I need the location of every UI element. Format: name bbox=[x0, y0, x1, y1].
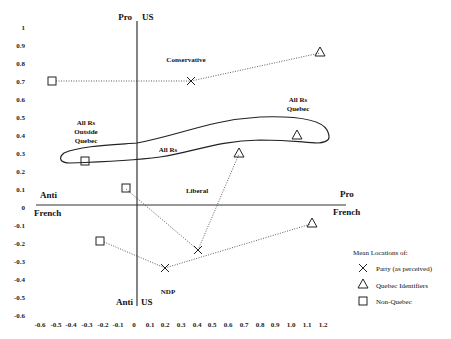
label-ndp: NDP bbox=[161, 288, 176, 296]
legend-label-nonquebec: Non-Quebec bbox=[376, 298, 412, 306]
legend-triangle-icon bbox=[358, 279, 368, 288]
y-tick: -0.4 bbox=[14, 276, 26, 284]
x-tick: 0 bbox=[132, 321, 136, 329]
label-all-rs-outside-line1: All Rs bbox=[77, 119, 96, 127]
label-all-rs-quebec-line1: All Rs bbox=[289, 96, 308, 104]
x-tick: 0.9 bbox=[271, 321, 280, 329]
square-marker-conservative-nonquebec bbox=[48, 77, 56, 85]
triangle-marker-allrs-quebec bbox=[292, 130, 302, 139]
label-all-rs-quebec-line2: Quebec bbox=[287, 105, 310, 113]
x-tick: -0.5 bbox=[50, 321, 62, 329]
axis-label-pro-french-bottom: French bbox=[333, 207, 360, 217]
x-tick: -0.3 bbox=[81, 321, 93, 329]
axis-label-anti-us-left: Anti bbox=[116, 297, 134, 307]
label-liberal: Liberal bbox=[186, 187, 208, 195]
square-marker-allrs-outside-quebec bbox=[81, 157, 89, 165]
x-tick: -0.2 bbox=[97, 321, 109, 329]
liberal-lines bbox=[126, 154, 239, 250]
x-tick: 0.7 bbox=[240, 321, 249, 329]
axis-label-anti-us-right: US bbox=[141, 297, 153, 307]
y-tick: 0.9 bbox=[16, 42, 25, 50]
x-tick: 1.0 bbox=[287, 321, 296, 329]
x-tick: 0.4 bbox=[193, 321, 202, 329]
y-tick: -0.1 bbox=[14, 222, 26, 230]
x-tick: 0.2 bbox=[161, 321, 170, 329]
y-tick: -0.3 bbox=[14, 258, 26, 266]
y-tick: 0.2 bbox=[16, 168, 25, 176]
legend-square-icon bbox=[359, 297, 367, 305]
y-tick: 1 bbox=[22, 24, 26, 32]
triangle-marker-liberal-quebec bbox=[234, 148, 244, 157]
x-tick: 1.2 bbox=[319, 321, 328, 329]
y-tick: 0.6 bbox=[16, 96, 25, 104]
x-marker-conservative-party bbox=[187, 77, 195, 85]
y-tick: -0.5 bbox=[14, 294, 26, 302]
x-tick: 0.1 bbox=[146, 321, 155, 329]
square-marker-liberal-nonquebec bbox=[122, 184, 130, 192]
axis-label-anti-french-top: Anti bbox=[40, 190, 58, 200]
all-rs-enclosure bbox=[61, 117, 329, 163]
y-tick: 0.8 bbox=[16, 60, 25, 68]
x-tick: 0.8 bbox=[256, 321, 265, 329]
x-axis-ticks: -0.6 -0.5 -0.4 -0.3 -0.2 -0.1 0 0.1 0.2 … bbox=[34, 321, 327, 329]
legend-label-party: Party (as perceived) bbox=[376, 265, 433, 273]
y-tick: -0.2 bbox=[14, 240, 26, 248]
axis-label-pro-us-left: Pro bbox=[118, 12, 132, 22]
y-tick: 0.7 bbox=[16, 78, 25, 86]
x-tick: -0.1 bbox=[112, 321, 124, 329]
triangle-marker-ndp-quebec bbox=[307, 218, 317, 227]
y-axis-ticks: 1 0.9 0.8 0.7 0.6 0.5 0.4 0.3 0.2 0.1 0 … bbox=[14, 24, 26, 320]
y-tick: 0.4 bbox=[16, 132, 25, 140]
square-marker-ndp-nonquebec bbox=[96, 237, 104, 245]
legend-label-quebec: Quebec Identifiers bbox=[376, 282, 428, 290]
triangle-marker-conservative-quebec bbox=[315, 47, 325, 56]
y-tick: -0.6 bbox=[14, 312, 26, 320]
axis-label-anti-french-bottom: French bbox=[34, 208, 61, 218]
y-tick: 0 bbox=[22, 204, 26, 212]
x-tick: 0.3 bbox=[177, 321, 186, 329]
x-tick: -0.4 bbox=[65, 321, 77, 329]
label-all-rs-outside-line3: Quebec bbox=[75, 137, 98, 145]
x-marker-ndp-party bbox=[161, 264, 169, 272]
x-marker-liberal-party bbox=[194, 246, 202, 254]
x-tick: -0.6 bbox=[34, 321, 46, 329]
ndp-lines bbox=[104, 224, 311, 268]
x-tick: 1.1 bbox=[303, 321, 312, 329]
x-tick: 0.5 bbox=[208, 321, 217, 329]
y-tick: 0.1 bbox=[16, 186, 25, 194]
y-tick: 0.3 bbox=[16, 150, 25, 158]
legend-x-icon bbox=[359, 264, 367, 272]
y-tick: 0.5 bbox=[16, 114, 25, 122]
label-all-rs: All Rs bbox=[159, 146, 178, 154]
perceptual-map-chart: 1 0.9 0.8 0.7 0.6 0.5 0.4 0.3 0.2 0.1 0 … bbox=[0, 0, 451, 339]
axis-label-pro-french-top: Pro bbox=[340, 189, 354, 199]
axis-label-pro-us-right: US bbox=[142, 12, 154, 22]
legend-title: Mean Locations of: bbox=[353, 249, 408, 257]
label-all-rs-outside-line2: Outside bbox=[74, 128, 97, 136]
label-conservative: Conservative bbox=[166, 56, 205, 64]
x-tick: 0.6 bbox=[224, 321, 233, 329]
legend: Mean Locations of: Party (as perceived) … bbox=[353, 249, 433, 306]
